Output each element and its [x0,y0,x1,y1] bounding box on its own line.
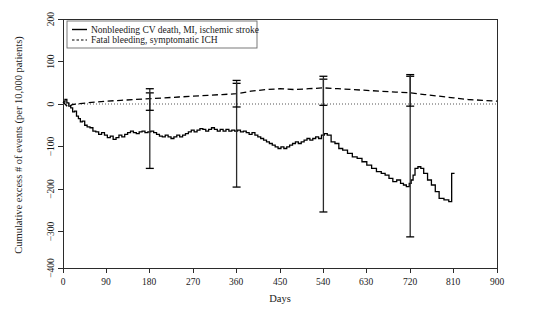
y-tick-label-neg300: −300 [46,221,56,241]
chart-figure: 200 100 0 −100 −200 −300 −400 Cumulative… [0,0,535,311]
chart-legend: Nonbleeding CV death, MI, ischemic strok… [67,21,259,48]
y-axis-title: Cumulative excess # of events (per 10,00… [13,36,25,254]
x-tick-label-810: 810 [446,277,461,287]
x-tick-label-360: 360 [229,277,244,287]
x-tick-label-630: 630 [359,277,374,287]
x-tick-label-900: 900 [490,277,505,287]
y-tick-label-100: 100 [46,54,56,69]
legend-label-fatal-bleeding: Fatal bleeding, symptomatic ICH [91,35,218,45]
x-tick-label-270: 270 [186,277,201,287]
cumulative-excess-events-chart: 200 100 0 −100 −200 −300 −400 Cumulative… [0,0,535,311]
x-tick-label-720: 720 [403,277,418,287]
x-tick-label-540: 540 [316,277,331,287]
legend-label-nonbleeding: Nonbleeding CV death, MI, ischemic strok… [91,25,259,35]
x-tick-label-0: 0 [61,277,66,287]
x-tick-label-90: 90 [101,277,111,287]
x-tick-label-180: 180 [142,277,157,287]
y-tick-label-neg400: −400 [46,258,56,278]
y-tick-label-200: 200 [46,12,56,27]
y-tick-label-neg200: −200 [46,179,56,199]
y-tick-label-0: 0 [46,101,56,106]
y-tick-label-neg100: −100 [46,136,56,156]
x-tick-label-450: 450 [273,277,288,287]
x-axis-title: Days [269,293,291,304]
